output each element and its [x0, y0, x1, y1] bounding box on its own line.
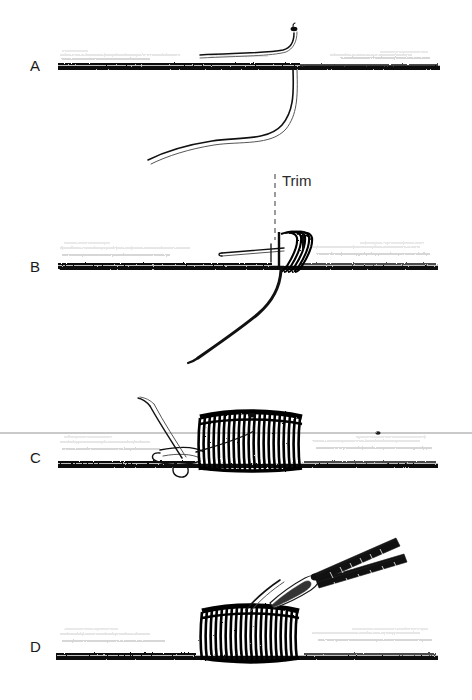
wrapping-diagram-svg: A Trim	[0, 0, 472, 700]
thread-turn-dot	[291, 27, 298, 31]
trim-label: Trim	[282, 172, 311, 189]
rod-lower-edge-b	[58, 264, 438, 268]
rod-lower-edge	[58, 64, 440, 68]
panel-label-c: C	[30, 449, 41, 466]
panel-label-a: A	[30, 57, 40, 74]
panel-label-d: D	[30, 638, 41, 655]
figure-root: A Trim	[0, 0, 472, 700]
panel-label-b: B	[30, 258, 40, 275]
paper-background	[0, 0, 472, 700]
